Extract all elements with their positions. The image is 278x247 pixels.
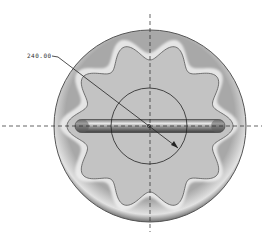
part-view <box>0 0 278 247</box>
dimension-label: 240.00 <box>27 52 52 59</box>
cad-drawing: 240.00 <box>0 0 278 247</box>
